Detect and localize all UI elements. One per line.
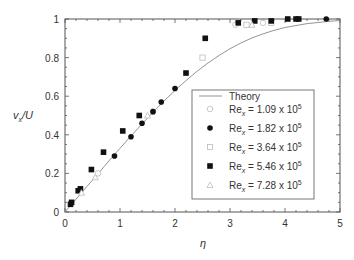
data-point-filled-circle bbox=[139, 120, 145, 126]
legend-marker-filled-circle bbox=[207, 125, 213, 131]
legend-label: Rex = 7.28 x 105 bbox=[229, 179, 302, 193]
y-tick-label: 0.6 bbox=[45, 91, 59, 102]
data-point-filled-square bbox=[235, 20, 241, 26]
legend-label: Rex = 1.09 x 105 bbox=[229, 103, 302, 117]
x-tick-label: 3 bbox=[227, 218, 233, 229]
data-point-filled-square bbox=[183, 70, 189, 76]
data-point-filled-square bbox=[202, 36, 208, 42]
data-point-filled-circle bbox=[158, 99, 164, 105]
data-point-filled-square bbox=[89, 167, 95, 173]
y-tick-label: 1 bbox=[53, 14, 59, 25]
legend-label: Rex = 3.64 x 105 bbox=[229, 141, 302, 155]
y-tick-label: 0.4 bbox=[45, 130, 59, 141]
y-tick-label: 0.2 bbox=[45, 168, 59, 179]
data-point-open-circle bbox=[260, 20, 266, 26]
data-point-filled-circle bbox=[112, 153, 118, 159]
chart: 012345 00.20.40.60.81 η vx/U Theory Rex … bbox=[0, 0, 354, 260]
data-point-filled-square bbox=[120, 128, 126, 134]
legend-label: Rex = 5.46 x 105 bbox=[229, 160, 302, 174]
data-point-open-square bbox=[200, 55, 205, 60]
data-point-filled-square bbox=[101, 149, 107, 155]
data-point-filled-circle bbox=[172, 86, 178, 92]
legend: Theory Rex = 1.09 x 105Rex = 1.82 x 105R… bbox=[192, 90, 314, 199]
y-tick-labels: 00.20.40.60.81 bbox=[45, 14, 59, 218]
data-point-open-square bbox=[244, 22, 249, 27]
y-axis-label: vx/U bbox=[13, 109, 33, 123]
x-tick-labels: 012345 bbox=[62, 218, 343, 229]
data-point-filled-square bbox=[296, 16, 302, 22]
data-point-filled-circle bbox=[150, 109, 156, 115]
data-point-filled-square bbox=[69, 200, 75, 206]
legend-marker-open-square bbox=[207, 144, 212, 149]
data-point-filled-square bbox=[285, 16, 291, 22]
legend-label: Rex = 1.82 x 105 bbox=[229, 122, 302, 136]
legend-marker-filled-square bbox=[207, 163, 213, 169]
data-point-filled-circle bbox=[128, 134, 134, 140]
x-tick-label: 5 bbox=[337, 218, 343, 229]
legend-marker-open-circle bbox=[207, 106, 213, 112]
y-tick-label: 0 bbox=[53, 207, 59, 218]
data-point-filled-square bbox=[268, 18, 274, 24]
data-point-filled-circle bbox=[323, 16, 329, 22]
x-tick-label: 0 bbox=[62, 218, 68, 229]
x-tick-label: 1 bbox=[117, 218, 123, 229]
x-axis-label: η bbox=[200, 237, 206, 249]
y-tick-label: 0.8 bbox=[45, 53, 59, 64]
legend-theory-label: Theory bbox=[229, 91, 260, 102]
x-tick-label: 2 bbox=[172, 218, 178, 229]
data-point-filled-square bbox=[136, 113, 142, 119]
x-tick-label: 4 bbox=[282, 218, 288, 229]
